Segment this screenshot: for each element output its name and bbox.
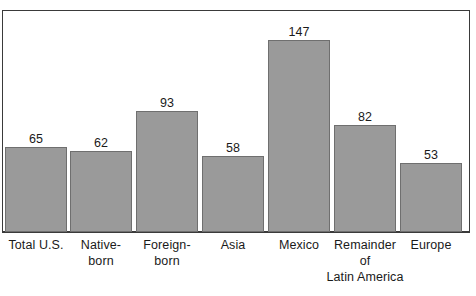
- bar-value-label: 62: [70, 137, 132, 150]
- bar-value-label: 58: [202, 142, 264, 155]
- bar-chart: 65 62 93 58 147 82 53 Total U.S.: [0, 0, 476, 296]
- bar-value-label: 53: [400, 149, 462, 162]
- category-label-foreign-born: Foreign- born: [136, 237, 198, 269]
- category-label-europe: Europe: [400, 237, 462, 253]
- bar-group-mexico: 147: [268, 40, 330, 232]
- bar-group-remainder-latin-america: 82: [334, 125, 396, 232]
- category-label-total-us: Total U.S.: [5, 237, 67, 253]
- category-label-native-born: Native- born: [70, 237, 132, 269]
- bar-value-label: 82: [334, 111, 396, 124]
- bar-remainder-latin-america[interactable]: [334, 125, 396, 232]
- bar-asia[interactable]: [202, 156, 264, 232]
- bar-group-asia: 58: [202, 156, 264, 232]
- category-label-asia: Asia: [202, 237, 264, 253]
- category-label-remainder-latin-america: Remainder of Latin America: [322, 237, 408, 285]
- category-label-mexico: Mexico: [268, 237, 330, 253]
- bars-layer: 65 62 93 58 147 82 53: [0, 0, 476, 232]
- bar-native-born[interactable]: [70, 151, 132, 232]
- bar-total-us[interactable]: [5, 147, 67, 232]
- category-labels-layer: Total U.S. Native- born Foreign- born As…: [0, 232, 476, 296]
- bar-value-label: 65: [5, 133, 67, 146]
- bar-value-label: 93: [136, 97, 198, 110]
- bar-group-total-us: 65: [5, 147, 67, 232]
- bar-foreign-born[interactable]: [136, 111, 198, 232]
- bar-europe[interactable]: [400, 163, 462, 232]
- bar-group-europe: 53: [400, 163, 462, 232]
- bar-group-native-born: 62: [70, 151, 132, 232]
- bar-mexico[interactable]: [268, 40, 330, 232]
- bar-group-foreign-born: 93: [136, 111, 198, 232]
- bar-value-label: 147: [268, 26, 330, 39]
